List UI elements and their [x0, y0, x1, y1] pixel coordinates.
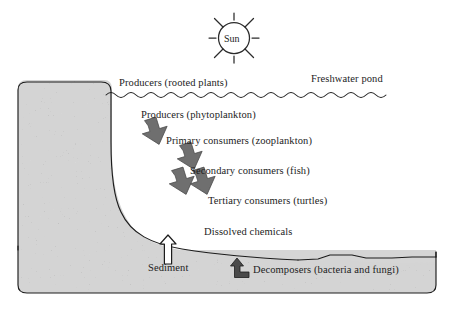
label-producers-rooted: Producers (rooted plants) [119, 78, 228, 89]
pond-ecosystem-diagram: Sun Producers (rooted plants) Freshwater… [0, 0, 455, 310]
label-secondary-consumers: Secondary consumers (fish) [190, 166, 310, 177]
wavy-water-line-icon [106, 93, 386, 98]
label-dissolved-chemicals: Dissolved chemicals [204, 227, 293, 238]
label-tertiary-consumers: Tertiary consumers (turtles) [208, 196, 327, 207]
label-freshwater-pond: Freshwater pond [311, 74, 383, 85]
label-decomposers: Decomposers (bacteria and fungi) [253, 265, 399, 276]
sun-label: Sun [224, 33, 240, 44]
label-sediment: Sediment [148, 263, 188, 274]
label-primary-consumers: Primary consumers (zooplankton) [166, 136, 312, 147]
label-producers-phytoplankton: Producers (phytoplankton) [141, 110, 256, 121]
